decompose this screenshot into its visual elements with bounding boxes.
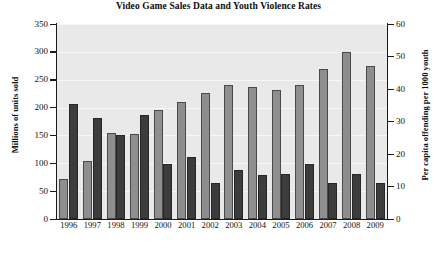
bar-sales xyxy=(295,85,304,219)
x-axis-tick-label: 2001 xyxy=(175,221,199,230)
left-axis-tick xyxy=(50,79,56,80)
x-axis-tick-label: 1998 xyxy=(104,221,128,230)
x-axis-tick-label: 2004 xyxy=(246,221,270,230)
left-axis-tick-label: 300 xyxy=(8,47,48,56)
right-axis-tick xyxy=(388,121,394,122)
left-axis-tick xyxy=(50,107,56,108)
gridline xyxy=(57,52,387,53)
bar-violence xyxy=(352,174,361,220)
bar-violence xyxy=(328,183,337,219)
bar-sales xyxy=(366,66,375,219)
x-axis-tick-label: 2008 xyxy=(340,221,364,230)
bar-violence xyxy=(163,164,172,219)
x-axis-tick-label: 2005 xyxy=(269,221,293,230)
bar-sales xyxy=(130,134,139,219)
gridline xyxy=(57,24,387,25)
gridline xyxy=(57,108,387,109)
left-axis-line xyxy=(56,23,57,220)
left-axis-tick-label: 100 xyxy=(8,159,48,168)
bar-violence xyxy=(69,104,78,219)
bar-sales xyxy=(248,87,257,219)
right-axis-tick xyxy=(388,89,394,90)
bar-sales xyxy=(177,102,186,219)
bar-sales xyxy=(224,85,233,219)
right-axis-tick-label: 50 xyxy=(396,52,430,61)
bar-sales xyxy=(59,179,68,219)
left-axis-tick xyxy=(50,191,56,192)
x-axis-tick-label: 2006 xyxy=(293,221,317,230)
bar-violence xyxy=(187,157,196,219)
right-axis-tick xyxy=(388,219,394,220)
right-axis-tick-label: 20 xyxy=(396,150,430,159)
right-axis-tick xyxy=(388,154,394,155)
left-axis-tick-label: 150 xyxy=(8,131,48,140)
x-axis-tick-label: 2009 xyxy=(363,221,387,230)
bar-violence xyxy=(376,183,385,219)
x-axis-tick-label: 2000 xyxy=(151,221,175,230)
left-axis-tick-label: 200 xyxy=(8,103,48,112)
bar-violence xyxy=(258,175,267,219)
left-axis-tick xyxy=(50,24,56,25)
plot-area xyxy=(57,24,387,219)
x-axis-tick-label: 1999 xyxy=(128,221,152,230)
left-axis-tick xyxy=(50,135,56,136)
x-axis-tick-label: 2002 xyxy=(198,221,222,230)
left-axis-tick-label: 0 xyxy=(8,215,48,224)
bar-sales xyxy=(107,133,116,219)
right-axis-tick-label: 60 xyxy=(396,20,430,29)
bar-violence xyxy=(305,164,314,219)
left-axis-tick-label: 50 xyxy=(8,187,48,196)
bar-sales xyxy=(201,93,210,219)
chart-title: Video Game Sales Data and Youth Violence… xyxy=(0,1,437,11)
x-axis-tick-label: 2003 xyxy=(222,221,246,230)
bar-sales xyxy=(342,52,351,219)
bar-violence xyxy=(116,135,125,220)
right-axis-tick-label: 30 xyxy=(396,117,430,126)
bar-violence xyxy=(234,170,243,219)
right-axis-tick xyxy=(388,56,394,57)
bar-sales xyxy=(83,161,92,220)
chart-figure: Video Game Sales Data and Youth Violence… xyxy=(0,0,437,253)
caption-fragment xyxy=(6,246,206,253)
right-axis-tick-label: 10 xyxy=(396,182,430,191)
right-axis-tick-label: 0 xyxy=(396,215,430,224)
bar-violence xyxy=(140,115,149,219)
gridline xyxy=(57,80,387,81)
left-axis-tick xyxy=(50,219,56,220)
x-axis-tick-label: 1996 xyxy=(57,221,81,230)
left-axis-tick-label: 350 xyxy=(8,20,48,29)
right-axis-tick-label: 40 xyxy=(396,85,430,94)
bar-violence xyxy=(281,174,290,220)
bar-violence xyxy=(211,183,220,219)
left-axis-tick-label: 250 xyxy=(8,75,48,84)
left-axis-tick xyxy=(50,51,56,52)
bar-violence xyxy=(93,118,102,219)
bar-sales xyxy=(154,110,163,219)
left-axis-tick xyxy=(50,163,56,164)
right-axis-tick xyxy=(388,186,394,187)
x-axis-tick-label: 2007 xyxy=(316,221,340,230)
bar-sales xyxy=(319,69,328,219)
right-axis-tick xyxy=(388,24,394,25)
bar-sales xyxy=(272,90,281,219)
x-axis-tick-label: 1997 xyxy=(81,221,105,230)
